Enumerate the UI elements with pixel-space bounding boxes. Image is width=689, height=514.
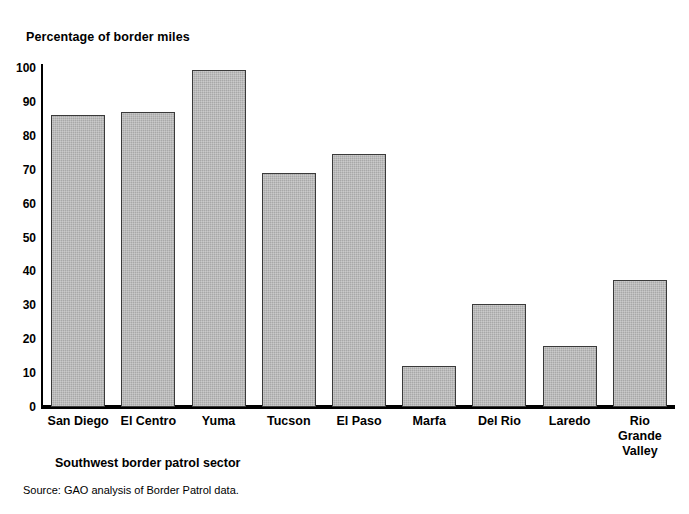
y-tick-label: 70	[23, 163, 36, 177]
bar	[121, 112, 175, 407]
y-tick-label: 40	[23, 264, 36, 278]
bar	[402, 366, 456, 407]
x-tick-label: San Diego	[43, 414, 113, 429]
x-tick-label: El Paso	[324, 414, 394, 429]
x-tick-label: Yuma	[183, 414, 253, 429]
x-axis-title: Southwest border patrol sector	[55, 456, 240, 470]
bar	[51, 115, 105, 407]
x-tick-label: Laredo	[535, 414, 605, 429]
y-tick-label: 60	[23, 197, 36, 211]
x-tick-label: Del Rio	[464, 414, 534, 429]
x-tick-label: El Centro	[113, 414, 183, 429]
bar	[543, 346, 597, 407]
x-tick-label: Tucson	[254, 414, 324, 429]
y-tick-label: 10	[23, 366, 36, 380]
y-tick-label: 20	[23, 332, 36, 346]
y-axis-tick-labels: 0102030405060708090100	[0, 0, 36, 514]
x-tick-label: Marfa	[394, 414, 464, 429]
source-note: Source: GAO analysis of Border Patrol da…	[23, 484, 239, 496]
bar	[262, 173, 316, 407]
y-tick-label: 30	[23, 298, 36, 312]
y-tick-label: 50	[23, 231, 36, 245]
y-tick-label: 80	[23, 129, 36, 143]
y-tick-label: 90	[23, 95, 36, 109]
y-tick-label: 100	[16, 61, 36, 75]
y-tick-label: 0	[29, 400, 36, 414]
bar	[472, 304, 526, 407]
x-tick-label: Rio Grande Valley	[605, 414, 675, 459]
bar	[192, 70, 246, 407]
bar	[613, 280, 667, 407]
bar	[332, 154, 386, 407]
